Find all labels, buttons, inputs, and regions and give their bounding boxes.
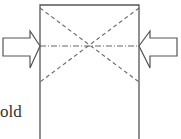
specimen-rectangle	[40, 5, 139, 139]
compression-diagram	[0, 0, 181, 139]
left-arrow-icon	[3, 31, 40, 68]
diagonal-dashed-lines	[40, 8, 139, 82]
right-arrow-icon	[139, 31, 177, 68]
label-text: old	[0, 102, 22, 122]
